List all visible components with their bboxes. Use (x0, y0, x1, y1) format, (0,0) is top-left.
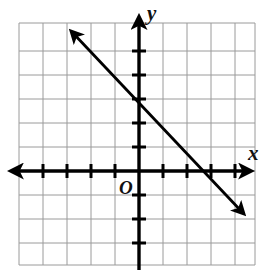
origin-label: O (119, 177, 133, 198)
figure-background (0, 0, 267, 271)
coordinate-plane-figure: y x O (0, 0, 267, 271)
x-axis-label: x (247, 141, 259, 165)
coordinate-plane-svg: y x O (0, 0, 267, 271)
